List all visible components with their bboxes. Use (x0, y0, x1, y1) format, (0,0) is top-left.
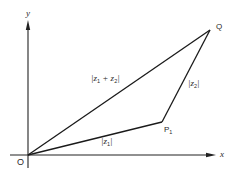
segment-op1-label: |z1| (101, 137, 113, 147)
segment-op1 (28, 122, 162, 155)
origin-label: O (17, 158, 24, 167)
point-p1-label: P1 (164, 126, 172, 135)
point-p1-subscript: 1 (169, 129, 172, 135)
y-axis-label: y (26, 9, 30, 18)
segment-oq (28, 30, 210, 155)
segment-oq-label-mid: + z (100, 73, 114, 83)
x-axis-arrow-icon (206, 153, 216, 157)
segment-oq-label-suffix: | (117, 73, 119, 83)
segment-p1q-label: |z2| (188, 79, 200, 89)
segment-p1q (162, 30, 210, 122)
y-axis-arrow-icon (26, 20, 30, 30)
segment-op1-label-suffix: | (110, 136, 112, 146)
segment-oq-label: |z1 + z2| (91, 74, 120, 84)
x-axis-label: x (220, 150, 224, 159)
triangle-inequality-diagram (0, 0, 237, 182)
point-q-label: Q (216, 23, 222, 31)
segment-p1q-label-suffix: | (197, 78, 199, 88)
